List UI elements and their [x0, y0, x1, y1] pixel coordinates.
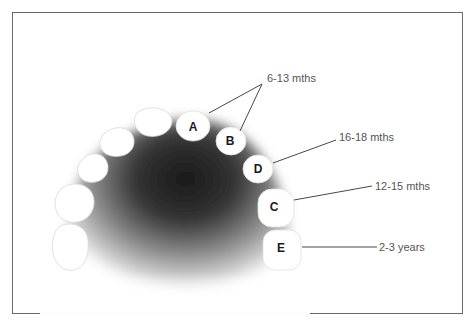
age-label-e: 2-3 years: [379, 241, 425, 253]
tooth: [100, 128, 134, 157]
age-label-c: 12-15 mths: [375, 180, 431, 192]
tooth-a: A: [176, 111, 210, 141]
tooth-label-e: E: [277, 241, 285, 255]
leader-line-d: [273, 140, 336, 163]
tooth-label-b: B: [226, 134, 235, 148]
age-label-ab: 6-13 mths: [267, 72, 316, 84]
dental-arch-diagram: A B D C E 6-13 mths 16-18 mths 12-15 mth…: [0, 0, 473, 324]
leader-line-b: [240, 84, 262, 131]
tooth: [52, 224, 88, 270]
tooth: [78, 154, 108, 183]
leader-line-a: [209, 84, 262, 113]
tooth-e: E: [263, 230, 301, 270]
tooth-b: B: [216, 127, 246, 155]
tooth-d: D: [243, 155, 273, 183]
tooth-label-c: C: [270, 200, 279, 214]
tooth-label-d: D: [254, 162, 263, 176]
tooth: [55, 184, 94, 222]
tooth: [134, 108, 172, 137]
tooth-c: C: [258, 189, 294, 227]
tooth-label-a: A: [189, 120, 198, 134]
age-label-d: 16-18 mths: [339, 131, 395, 143]
leader-line-c: [294, 186, 372, 200]
